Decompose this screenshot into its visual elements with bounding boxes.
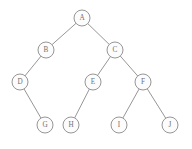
tree-edge-b-d <box>25 56 41 76</box>
tree-node-b: B <box>38 42 54 58</box>
binary-tree-figure: ABCDEFGHIJ <box>0 0 192 149</box>
tree-graph-canvas: ABCDEFGHIJ <box>0 0 192 149</box>
tree-node-c: C <box>107 42 123 58</box>
tree-node-e: E <box>85 74 101 90</box>
tree-node-i: I <box>111 117 127 133</box>
tree-node-d: D <box>12 74 28 90</box>
edges-layer <box>24 23 166 118</box>
tree-edge-a-b <box>52 23 76 44</box>
tree-edge-c-e <box>98 57 111 76</box>
node-label-e: E <box>91 78 96 86</box>
tree-node-h: H <box>63 117 79 133</box>
tree-node-j: J <box>162 117 178 133</box>
node-label-g: G <box>42 121 47 129</box>
node-label-d: D <box>17 78 22 86</box>
tree-node-a: A <box>74 10 90 26</box>
tree-edge-e-h <box>75 89 90 118</box>
node-label-c: C <box>113 46 118 54</box>
tree-edge-f-j <box>147 89 166 118</box>
node-label-b: B <box>44 46 49 54</box>
tree-edge-f-i <box>123 89 139 118</box>
tree-edge-c-f <box>120 56 137 76</box>
nodes-layer: ABCDEFGHIJ <box>12 10 178 133</box>
node-label-a: A <box>79 14 85 22</box>
tree-node-g: G <box>37 117 53 133</box>
node-label-f: F <box>141 78 145 86</box>
tree-edge-d-g <box>24 89 41 118</box>
tree-edge-a-c <box>88 24 110 45</box>
node-label-j: J <box>169 121 172 129</box>
node-label-h: H <box>68 121 73 129</box>
tree-node-f: F <box>135 74 151 90</box>
